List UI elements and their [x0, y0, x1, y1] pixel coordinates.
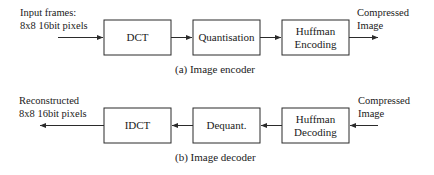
block-idct [104, 108, 171, 143]
encoder-output-label-line2: Image [357, 20, 409, 33]
block-quantisation [193, 20, 260, 55]
decoder-output-label-line2: 8x8 16bit pixels [19, 108, 87, 121]
encoder-group [58, 20, 378, 55]
diagram-canvas: DCT Quantisation Huffman Encoding Input … [0, 0, 434, 175]
decoder-input-label-line2: Image [358, 108, 410, 121]
block-huffman-decoding [282, 108, 349, 143]
decoder-caption: (b) Image decoder [175, 151, 256, 164]
decoder-input-label: Compressed Image [358, 95, 410, 120]
encoder-input-label-line2: 8x8 16bit pixels [20, 20, 88, 33]
encoder-input-label: Input frames: 8x8 16bit pixels [20, 7, 88, 32]
encoder-output-label-line1: Compressed [357, 7, 409, 20]
block-dct [104, 20, 171, 55]
decoder-group [40, 108, 378, 143]
decoder-input-label-line1: Compressed [358, 95, 410, 108]
encoder-caption: (a) Image encoder [175, 63, 255, 76]
encoder-input-label-line1: Input frames: [20, 7, 88, 20]
block-huffman-encoding [282, 20, 349, 55]
encoder-output-label: Compressed Image [357, 7, 409, 32]
decoder-output-label-line1: Reconstructed [19, 95, 87, 108]
decoder-output-label: Reconstructed 8x8 16bit pixels [19, 95, 87, 120]
block-dequant [193, 108, 260, 143]
